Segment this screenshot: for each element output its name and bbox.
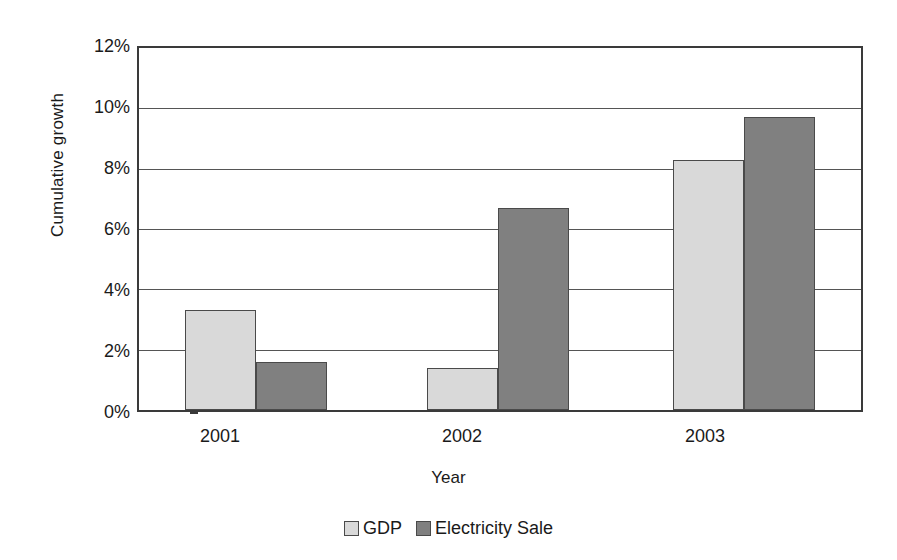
bar-2003-electricity-sale [744,117,815,410]
y-tick-label-2: 2% [68,342,130,360]
legend-label-electricity-sale: Electricity Sale [435,518,553,539]
y-tick-label-8: 8% [68,159,130,177]
plot-area [137,46,863,412]
bar-2001-electricity-sale [256,362,327,410]
bar-2002-gdp [427,368,498,410]
chart-legend: GDP Electricity Sale [0,518,897,539]
x-tick-label-2001: 2001 [140,426,300,447]
y-tick-label-6: 6% [68,220,130,238]
y-tick-label-10: 10% [68,98,130,116]
y-axis-ticks: 12% 10% 8% 6% 4% 2% 0% [60,46,130,412]
y-tick-label-4: 4% [68,281,130,299]
bar-2002-electricity-sale [498,208,569,410]
x-tick-label-2003: 2003 [625,426,785,447]
legend-swatch-electricity-sale-icon [416,521,431,536]
bar-chart-figure: Cumulative growth 12% 10% 8% 6% 4% 2% 0% [0,0,897,560]
y-tick-label-12: 12% [68,37,130,55]
bar-2001-gdp [185,310,256,410]
legend-label-gdp: GDP [363,518,402,539]
x-axis-title: Year [0,468,897,488]
x-tick-label-2002: 2002 [382,426,542,447]
y-tick-label-0: 0% [68,403,130,421]
legend-swatch-gdp-icon [344,521,359,536]
legend-entry-electricity-sale: Electricity Sale [416,518,553,539]
gridline-10 [139,108,861,109]
legend-entry-gdp: GDP [344,518,402,539]
y-tick-mark-0 [190,412,198,414]
bar-2003-gdp [673,160,744,410]
